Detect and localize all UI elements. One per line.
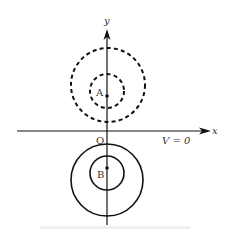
- point-a-label: A: [95, 87, 104, 98]
- point-b-marker: [105, 166, 109, 170]
- x-axis-label: x: [212, 125, 218, 136]
- caption-faded: [40, 226, 190, 229]
- y-axis-label: y: [103, 15, 110, 26]
- equipotential-diagram: y x O V = 0 A B: [0, 0, 229, 234]
- point-b-label: B: [97, 169, 104, 180]
- dashed-circle-outer: [71, 48, 145, 122]
- point-a-marker: [105, 94, 109, 98]
- potential-label: V = 0: [162, 135, 191, 146]
